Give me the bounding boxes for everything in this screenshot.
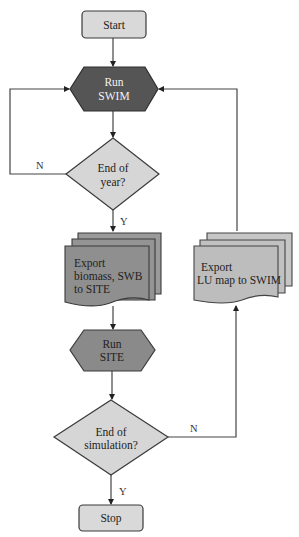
end-of-year-yes-label: Y <box>120 216 128 227</box>
end-of-year-shape <box>66 138 159 210</box>
node-export-lu-map: Export LU map to SWIM <box>194 233 292 303</box>
end-of-simulation-yes-label: Y <box>119 486 127 497</box>
export-biomass-label-line3: to SITE <box>74 283 110 295</box>
node-start: Start <box>82 11 146 38</box>
export-lu-map-label-line2: LU map to SWIM <box>197 274 281 287</box>
export-lu-map-label-line1: Export <box>201 261 233 274</box>
export-biomass-label-line1: Export <box>74 257 106 270</box>
edge-end-of-simulation-no <box>168 306 236 437</box>
node-run-swim: Run SWIM <box>70 67 158 111</box>
end-of-simulation-label-line1: End of <box>96 426 127 438</box>
end-of-simulation-label-line2: simulation? <box>84 439 138 451</box>
edge-export-lu-map-to-run-swim <box>159 89 237 231</box>
run-site-label-line2: SITE <box>100 351 124 363</box>
stop-label: Stop <box>100 512 121 525</box>
run-swim-shape <box>70 67 158 111</box>
node-end-of-year: End of year? <box>66 138 159 210</box>
end-of-year-label-line2: year? <box>101 176 126 189</box>
end-of-simulation-no-label: N <box>190 423 198 434</box>
end-of-year-no-label: N <box>36 160 44 171</box>
end-of-year-label-line1: End of <box>98 162 129 174</box>
node-run-site: Run SITE <box>70 330 155 371</box>
node-export-biomass: Export biomass, SWB to SITE <box>65 233 161 306</box>
node-stop: Stop <box>79 505 143 531</box>
run-swim-label-line2: SWIM <box>98 90 129 102</box>
node-end-of-simulation: End of simulation? <box>54 400 168 475</box>
run-swim-label-line1: Run <box>104 76 123 88</box>
export-biomass-label-line2: biomass, SWB <box>74 270 143 283</box>
flowchart: Start Run SWIM End of year? N Y Export b… <box>0 0 299 537</box>
start-label: Start <box>103 19 126 31</box>
run-site-label-line1: Run <box>102 338 121 350</box>
